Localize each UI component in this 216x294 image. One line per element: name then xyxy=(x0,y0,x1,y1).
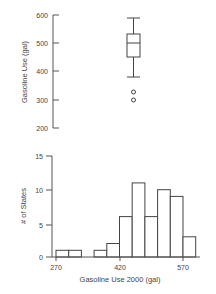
histogram-bar xyxy=(183,237,196,257)
iqr-box xyxy=(127,34,140,57)
histogram-bar xyxy=(69,250,82,257)
y-tick-label: 10 xyxy=(35,187,43,194)
histogram-bars xyxy=(56,183,196,257)
y-tick-label: 500 xyxy=(36,40,48,47)
histogram-bar xyxy=(158,190,171,257)
y-tick-label: 5 xyxy=(39,222,43,229)
histogram-panel: 15 10 5 0 # of States 270 420 570 Gasoli… xyxy=(19,153,200,285)
histogram-bar xyxy=(170,196,183,257)
y-tick-label: 400 xyxy=(36,68,48,75)
y-tick-label: 0 xyxy=(39,254,43,261)
x-tick-label: 270 xyxy=(50,264,62,271)
histogram-bar xyxy=(145,217,158,257)
x-tick-label: 570 xyxy=(177,264,189,271)
box-and-whisker xyxy=(127,18,140,102)
x-tick-label: 420 xyxy=(114,264,126,271)
boxplot-y-ticks: 600 500 400 300 200 xyxy=(36,12,59,132)
boxplot-y-axis-title: Gasoline Use (gal) xyxy=(20,40,29,103)
y-tick-label: 200 xyxy=(36,125,48,132)
histogram-y-axis-title: # of States xyxy=(19,188,28,224)
outlier-point xyxy=(132,98,136,102)
histogram-bar xyxy=(94,250,107,257)
histogram-bar xyxy=(132,183,145,257)
y-tick-label: 300 xyxy=(36,97,48,104)
figure: 600 500 400 300 200 Gasoline Use (gal) 1… xyxy=(0,0,216,294)
y-tick-label: 600 xyxy=(36,12,48,19)
histogram-bar xyxy=(120,217,133,257)
histogram-bar xyxy=(56,250,69,257)
histogram-x-ticks: 270 420 570 xyxy=(50,257,189,271)
histogram-bar xyxy=(107,244,120,258)
boxplot-panel: 600 500 400 300 200 Gasoline Use (gal) xyxy=(20,12,140,132)
y-tick-label: 15 xyxy=(35,153,43,160)
outlier-point xyxy=(132,90,136,94)
histogram-y-ticks: 15 10 5 0 xyxy=(35,153,52,261)
histogram-x-axis-title: Gasoline Use 2000 (gal) xyxy=(80,275,161,284)
